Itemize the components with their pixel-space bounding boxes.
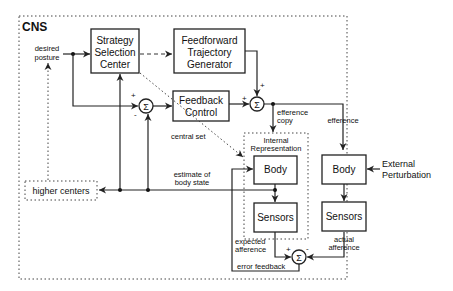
svg-text:Sensors: Sensors [326,211,363,222]
svg-text:Strategy: Strategy [96,35,133,46]
error-feedback-label: error feedback [237,262,286,271]
svg-text:Body: Body [333,164,356,175]
svg-text:Representation: Representation [251,144,302,153]
efference-label: efference [327,116,358,125]
svg-text:Trajectory: Trajectory [187,47,231,58]
external-sensors-box: Sensors [322,202,366,231]
svg-text:Sensors: Sensors [257,212,294,223]
feedforward-trajectory-generator-box: Feedforward Trajectory Generator [174,29,245,73]
svg-text:+: + [286,245,291,254]
actual-afference-label: actual afference [328,235,359,252]
svg-text:body state: body state [175,178,210,187]
svg-text:Generator: Generator [187,59,233,70]
cns-control-diagram: CNS desired posture Strategy Selection C… [0,0,453,291]
external-body-box: Body [322,155,366,184]
efference-copy-label: efference copy [277,108,308,125]
svg-text:Σ: Σ [296,253,302,263]
svg-text:Perturbation: Perturbation [382,170,431,180]
svg-text:Feedforward: Feedforward [181,35,237,46]
strategy-selection-center-box: Strategy Selection Center [91,29,139,73]
svg-text:External: External [382,159,415,169]
svg-text:copy: copy [277,116,293,125]
desired-posture-label: desired posture [34,44,59,62]
svg-text:Feedback: Feedback [179,95,224,106]
svg-text:-: - [306,244,309,253]
svg-text:afference: afference [235,245,266,254]
svg-text:desired: desired [35,44,60,53]
internal-sensors-box: Sensors [254,203,297,232]
svg-text:-: - [134,110,137,119]
summing-junction-3: Σ + - [286,244,309,264]
feedforward-to-sum2-arrow [245,51,257,96]
svg-text:higher centers: higher centers [32,186,90,196]
svg-text:+: + [260,81,265,90]
feedback-control-box: Feedback Control [173,91,229,121]
svg-text:Control: Control [185,107,217,118]
summing-junction-2: Σ + + [242,81,265,111]
expected-afference-label: expected afference [235,237,266,254]
svg-text:afference: afference [328,243,359,252]
cns-title: CNS [22,20,47,34]
internal-representation-label: Internal Representation [251,136,302,153]
svg-text:Selection: Selection [94,47,135,58]
svg-text:+: + [131,91,136,100]
higher-centers-box: higher centers [25,181,97,200]
svg-text:Center: Center [100,59,131,70]
estimate-body-state-label: estimate of body state [174,170,212,187]
external-perturbation-label: External Perturbation [382,159,431,180]
svg-text:+: + [242,94,247,103]
svg-text:Σ: Σ [254,100,260,110]
central-set-label: central set [171,132,207,141]
svg-text:Σ: Σ [143,102,149,112]
internal-body-box: Body [254,156,297,184]
svg-text:posture: posture [34,53,59,62]
summing-junction-1: Σ + - [131,91,153,119]
svg-text:Body: Body [264,164,287,175]
